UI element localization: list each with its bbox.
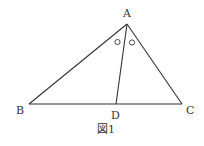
angle-mark-bad xyxy=(115,39,120,44)
segment-ac xyxy=(127,24,182,104)
segment-ab xyxy=(29,24,127,104)
triangle-diagram: A B C D 図1 xyxy=(0,0,204,146)
segment-ad xyxy=(116,24,127,104)
angle-mark-dac xyxy=(129,40,134,45)
label-c: C xyxy=(186,104,194,117)
label-a: A xyxy=(122,7,132,20)
figure-caption: 図1 xyxy=(97,123,115,136)
label-b: B xyxy=(16,104,24,117)
label-d: D xyxy=(111,109,120,122)
